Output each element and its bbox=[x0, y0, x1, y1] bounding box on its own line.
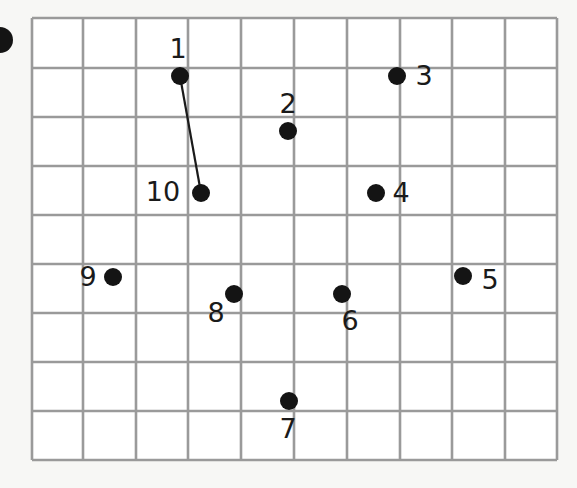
dot-2[interactable]: 2 bbox=[279, 88, 297, 140]
dot-1[interactable]: 1 bbox=[169, 33, 189, 85]
dot-number-label: 10 bbox=[146, 176, 180, 207]
dot-number-label: 5 bbox=[481, 264, 498, 295]
dot-circle[interactable] bbox=[454, 267, 472, 285]
dot-circle[interactable] bbox=[225, 285, 243, 303]
dot-circle[interactable] bbox=[279, 122, 297, 140]
grid bbox=[32, 18, 557, 460]
dot-circle[interactable] bbox=[388, 67, 406, 85]
dot-7[interactable]: 7 bbox=[279, 392, 298, 444]
dot-circle[interactable] bbox=[171, 67, 189, 85]
connect-the-dots-puzzle: 12345678910 bbox=[0, 0, 577, 488]
dot-circle[interactable] bbox=[367, 184, 385, 202]
dot-number-label: 9 bbox=[79, 261, 96, 292]
dot-number-label: 7 bbox=[279, 413, 296, 444]
dot-number-label: 6 bbox=[341, 305, 358, 336]
dot-circle[interactable] bbox=[333, 285, 351, 303]
dot-number-label: 1 bbox=[169, 33, 186, 64]
dot-number-label: 8 bbox=[207, 297, 224, 328]
dot-number-label: 3 bbox=[415, 60, 432, 91]
dot-circle[interactable] bbox=[104, 268, 122, 286]
dot-number-label: 2 bbox=[279, 88, 296, 119]
dot-circle[interactable] bbox=[280, 392, 298, 410]
dot-circle[interactable] bbox=[192, 184, 210, 202]
dot-number-label: 4 bbox=[392, 177, 409, 208]
dot-grid-board: 12345678910 bbox=[0, 0, 577, 488]
